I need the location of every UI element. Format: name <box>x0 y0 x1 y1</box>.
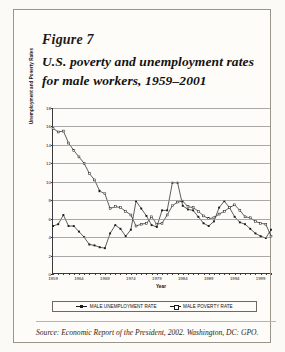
series-line <box>53 183 271 248</box>
x-tick-mark <box>110 273 111 275</box>
y-tick-label: 6 <box>49 216 51 221</box>
x-tick-mark <box>261 273 262 275</box>
data-point <box>104 247 106 249</box>
data-point <box>187 206 189 208</box>
data-point <box>68 225 70 227</box>
data-point <box>182 205 184 207</box>
data-point <box>223 210 225 212</box>
data-point <box>244 216 246 218</box>
x-tick-mark <box>115 273 116 275</box>
data-point <box>249 228 251 230</box>
grid-line <box>53 219 270 220</box>
x-axis-title: Year <box>52 284 270 289</box>
data-point <box>203 222 205 224</box>
x-tick-label: 1984 <box>178 276 188 281</box>
y-tick-label: 2 <box>49 253 51 258</box>
data-point <box>68 142 70 144</box>
x-tick-mark <box>63 273 64 275</box>
legend-label-poverty: MALE POVERTY RATE <box>183 304 233 309</box>
data-point <box>145 215 147 217</box>
x-tick-label: 1969 <box>100 276 110 281</box>
x-tick-mark <box>266 273 267 275</box>
x-tick-mark <box>219 273 220 275</box>
x-tick-mark <box>79 273 80 275</box>
data-point <box>161 222 163 224</box>
data-point <box>78 231 80 233</box>
x-tick-mark <box>178 273 179 275</box>
x-tick-mark <box>162 273 163 275</box>
legend-marker-unemployment-icon <box>76 304 87 309</box>
figure-title: U.S. poverty and unemployment rates for … <box>42 52 270 90</box>
grid-line <box>53 163 270 164</box>
data-point <box>114 206 116 208</box>
x-tick-mark <box>193 273 194 275</box>
y-tick-mark <box>51 219 53 220</box>
data-point <box>197 210 199 212</box>
x-tick-mark <box>89 273 90 275</box>
data-point <box>151 216 153 218</box>
data-point <box>244 223 246 225</box>
figure-label: Figure 7 <box>42 32 94 48</box>
source-note: Source: Economic Report of the President… <box>36 327 272 338</box>
y-tick-mark <box>51 145 53 146</box>
data-point <box>218 213 220 215</box>
x-tick-mark <box>204 273 205 275</box>
data-point <box>270 229 272 231</box>
data-point <box>177 201 179 203</box>
data-point <box>130 229 132 231</box>
x-tick-mark <box>255 273 256 275</box>
x-tick-mark <box>100 273 101 275</box>
x-tick-mark <box>136 273 137 275</box>
x-tick-mark <box>120 273 121 275</box>
x-tick-mark <box>105 273 106 275</box>
data-point <box>120 228 122 230</box>
y-tick-label: 18 <box>46 106 51 111</box>
page-background: Figure 7 U.S. poverty and unemployment r… <box>0 0 285 352</box>
data-point <box>104 193 106 195</box>
x-tick-mark <box>271 273 272 275</box>
x-tick-mark <box>152 273 153 275</box>
x-tick-mark <box>58 273 59 275</box>
data-point <box>208 225 210 227</box>
chart: Unemployment and Poverty Rates 024681012… <box>31 106 281 306</box>
data-point <box>234 216 236 218</box>
x-tick-mark <box>146 273 147 275</box>
x-tick-label: 1994 <box>230 276 240 281</box>
y-tick-mark <box>51 108 53 109</box>
data-point <box>254 220 256 222</box>
data-point <box>161 209 163 211</box>
data-point <box>151 224 153 226</box>
x-tick-mark <box>183 273 184 275</box>
x-tick-mark <box>131 273 132 275</box>
data-point <box>197 216 199 218</box>
data-point <box>73 149 75 151</box>
data-point <box>265 223 267 225</box>
grid-line <box>53 145 270 146</box>
data-point <box>229 207 231 209</box>
data-point <box>239 209 241 211</box>
data-point <box>109 208 111 210</box>
y-tick-label: 12 <box>46 161 51 166</box>
x-tick-mark <box>167 273 168 275</box>
data-point <box>120 207 122 209</box>
data-point <box>57 131 59 133</box>
grid-line <box>53 237 270 238</box>
y-axis-title: Unemployment and Poverty Rates <box>29 26 34 146</box>
source-divider <box>36 321 276 322</box>
x-tick-label: 1979 <box>152 276 162 281</box>
data-point <box>166 209 168 211</box>
x-tick-mark <box>198 273 199 275</box>
data-point <box>135 225 137 227</box>
data-point <box>52 225 54 227</box>
x-tick-mark <box>157 273 158 275</box>
y-tick-mark <box>51 163 53 164</box>
data-point <box>203 215 205 217</box>
data-point <box>166 214 168 216</box>
data-point <box>73 225 75 227</box>
y-tick-label: 4 <box>49 235 51 240</box>
data-point <box>192 207 194 209</box>
data-point <box>109 232 111 234</box>
data-point <box>99 190 101 192</box>
x-tick-mark <box>69 273 70 275</box>
x-tick-label: 1999 <box>256 276 266 281</box>
